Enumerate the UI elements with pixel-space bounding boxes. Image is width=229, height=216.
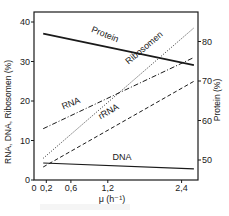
x-tick-label: 1,2	[102, 183, 115, 193]
series-lines	[43, 28, 194, 169]
series-labels: ProteinRibosomenRNArRNADNA	[60, 24, 165, 162]
right-y-axis: 50607080	[198, 37, 212, 166]
figure-caption-blurred	[40, 204, 130, 210]
chart: 010203040 50607080 00,20,61,22,4 Protein…	[0, 0, 229, 216]
series-label-protein: Protein	[90, 24, 120, 44]
x-tick-label: 2,4	[175, 183, 188, 193]
series-line-dna	[43, 163, 194, 169]
y-tick-label: 30	[20, 57, 30, 67]
right-y-tick-label: 80	[202, 37, 212, 47]
x-axis: 00,20,61,22,4	[31, 180, 187, 193]
x-tick-label: 0,2	[40, 183, 53, 193]
right-y-tick-label: 50	[202, 155, 212, 165]
series-label-rna: RNA	[60, 95, 81, 111]
series-line-rna	[43, 58, 194, 129]
y-axis-label: RNA, DNA, Ribosomen (%)	[3, 60, 13, 164]
series-label-ribosomen: Ribosomen	[123, 29, 164, 66]
right-y-tick-label: 70	[202, 76, 212, 86]
y-tick-label: 20	[20, 96, 30, 106]
x-axis-label: μ (h⁻¹)	[99, 194, 126, 204]
left-y-axis: 010203040	[20, 17, 34, 185]
x-tick-label: 0,6	[65, 183, 78, 193]
series-label-rrna: rRNA	[96, 102, 120, 122]
y-tick-label: 10	[20, 136, 30, 146]
series-label-dna: DNA	[112, 152, 131, 162]
right-y-tick-label: 60	[202, 116, 212, 126]
right-y-axis-label: Protein (%)	[212, 79, 222, 122]
y-tick-label: 40	[20, 17, 30, 27]
y-tick-label: 0	[25, 175, 30, 185]
x-tick-label: 0	[31, 183, 36, 193]
